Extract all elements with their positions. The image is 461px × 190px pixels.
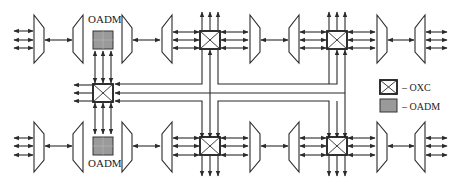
bottom-demux-2 — [122, 122, 132, 172]
legend-oxc-symbol — [380, 80, 397, 94]
top-mux-4 — [415, 15, 425, 63]
bottom-mux-2 — [162, 122, 172, 172]
left-oxc-column — [74, 51, 113, 134]
oxc-bottom-2 — [327, 137, 347, 155]
oxc-left — [93, 84, 113, 102]
oadm-top-label: OADM — [88, 13, 122, 25]
legend: – OXC – OADM — [380, 80, 440, 112]
legend-oxc-label: – OXC — [401, 82, 431, 93]
top-demux-2 — [122, 15, 132, 63]
bottom-right-io-arrows — [426, 138, 447, 155]
top-mux-2 — [162, 15, 172, 63]
bottom-mux-1 — [73, 122, 83, 172]
top-right-io-arrows — [426, 32, 447, 48]
top-demux-1 — [34, 15, 44, 63]
oxc-bottom-1 — [200, 137, 220, 155]
bottom-demux-1 — [34, 122, 44, 172]
bottom-mux-3 — [289, 122, 299, 172]
oadm-bottom-label: OADM — [88, 157, 122, 169]
bottom-mux-4 — [415, 122, 425, 172]
legend-oadm-label: – OADM — [401, 101, 440, 112]
top-demux-3 — [250, 15, 260, 63]
top-mux-1 — [73, 15, 83, 63]
bottom-left-io-arrows — [14, 138, 33, 155]
interconnect-lines — [115, 50, 345, 138]
oxc-top-2 — [327, 31, 347, 49]
bottom-row: OADM — [14, 122, 447, 176]
legend-oadm-symbol — [380, 99, 397, 112]
bottom-demux-3 — [250, 122, 260, 172]
top-demux-4 — [377, 15, 387, 63]
top-left-io-arrows — [14, 31, 33, 48]
bottom-demux-4 — [377, 122, 387, 172]
top-mux-3 — [289, 15, 299, 63]
optical-network-diagram: OADM — [0, 0, 461, 190]
top-row: OADM — [14, 12, 447, 63]
oxc-top-1 — [200, 31, 220, 49]
